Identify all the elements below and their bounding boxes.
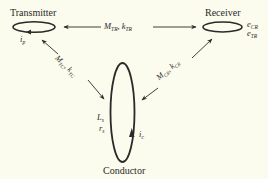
transmitter-loop — [13, 22, 55, 35]
diagram-graphics — [0, 0, 268, 179]
link-conductor-receiver-line — [142, 39, 212, 100]
conductor-current-label: ic — [139, 130, 144, 141]
receiver-loop — [203, 22, 242, 32]
conductor-label: Conductor — [103, 166, 145, 176]
receiver-emf-tr-label: eTR — [247, 29, 257, 40]
receiver-label: Receiver — [205, 8, 241, 18]
conductor-resistance-label: rs — [99, 124, 104, 135]
conductor-loop — [111, 63, 135, 162]
transmitter-label: Transmitter — [10, 8, 56, 18]
conductor-inductance-label: Ls — [97, 113, 104, 124]
link-transmitter-receiver-label: MTR, kTR — [104, 22, 132, 33]
transmitter-current-label: ip — [20, 35, 25, 46]
transmitter-current-arrow-icon — [26, 29, 31, 34]
coupling-diagram: Transmitter ip Receiver eCR eTR Ls rs ic… — [0, 0, 268, 179]
